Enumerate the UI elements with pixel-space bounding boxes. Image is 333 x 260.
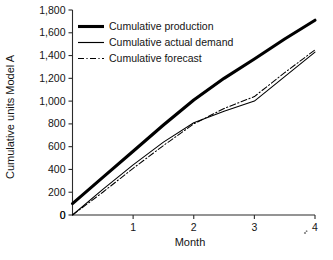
y-axis-tick-labels: 02004006008001,0001,2001,4001,6001,800 xyxy=(39,4,65,221)
x-axis-ticks xyxy=(133,215,315,219)
y-tick-label: 1,000 xyxy=(39,95,65,107)
y-tick-label: 800 xyxy=(48,117,66,129)
legend-label-cumulative-production: Cumulative production xyxy=(109,20,214,32)
y-tick-label: 1,600 xyxy=(39,26,65,38)
x-tick-label: 2 xyxy=(191,221,197,233)
legend-label-cumulative-forecast: Cumulative forecast xyxy=(109,52,202,64)
x-tick-label: 3 xyxy=(251,221,257,233)
y-tick-label: 400 xyxy=(48,163,66,175)
y-tick-label: 200 xyxy=(48,186,66,198)
y-tick-label: 1,200 xyxy=(39,72,65,84)
x-tick-label: 4 xyxy=(312,221,318,233)
y-tick-label: 1,400 xyxy=(39,49,65,61)
x-tick-label: 1 xyxy=(130,221,136,233)
y-axis-title: Cumulative units Model A xyxy=(4,54,16,179)
plot-area xyxy=(73,20,316,215)
legend-label-cumulative-actual-demand: Cumulative actual demand xyxy=(109,36,233,48)
y-tick-label: 600 xyxy=(48,140,66,152)
x-axis-title: Month xyxy=(175,236,206,248)
y-tick-label: 1,800 xyxy=(39,4,65,16)
y-axis-ticks xyxy=(69,10,73,215)
chart-container: 02004006008001,0001,2001,4001,6001,800 0… xyxy=(0,0,333,260)
y-axis-group: 02004006008001,0001,2001,4001,6001,800 xyxy=(39,4,72,221)
series-line-cumulative-actual-demand xyxy=(73,52,316,215)
line-chart: 02004006008001,0001,2001,4001,6001,800 0… xyxy=(0,0,333,260)
x-axis-tick-labels: 01234 xyxy=(60,209,318,233)
legend: Cumulative production Cumulative actual … xyxy=(78,20,233,64)
series-line-cumulative-forecast xyxy=(73,50,316,215)
x-tick-label: 0 xyxy=(60,209,66,221)
x-axis-group: 01234 xyxy=(60,209,318,233)
scan-artifact-speck xyxy=(304,230,308,234)
